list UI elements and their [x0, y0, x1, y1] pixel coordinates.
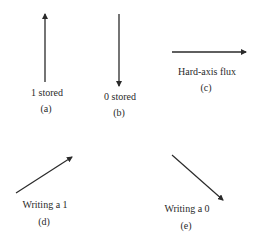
caption-d: Writing a 1 — [22, 200, 67, 210]
tag-d: (d) — [38, 217, 50, 227]
caption-e: Writing a 0 — [164, 204, 209, 214]
caption-a: 1 stored — [31, 88, 63, 98]
tag-c: (c) — [200, 83, 211, 93]
caption-b: 0 stored — [104, 92, 136, 102]
tag-a: (a) — [40, 104, 51, 114]
tag-e: (e) — [180, 221, 191, 231]
tag-b: (b) — [113, 108, 125, 118]
arrow-e-down-right — [172, 155, 223, 200]
arrow-d-up-right — [16, 157, 72, 193]
caption-c: Hard-axis flux — [178, 67, 236, 77]
